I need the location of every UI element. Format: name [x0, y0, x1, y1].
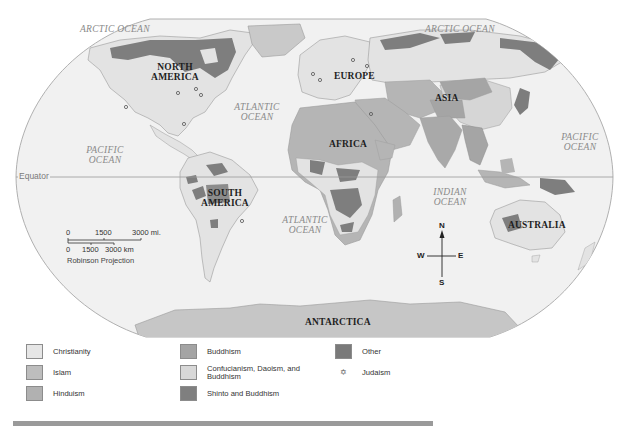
- continent-label-north-america: NORTH AMERICA: [140, 63, 210, 83]
- ocean-label-atlantic-south: ATLANTIC OCEAN: [266, 216, 344, 236]
- legend-label-christianity: Christianity: [53, 348, 91, 356]
- map-legend: Christianity Islam Hinduism Buddhism Con…: [0, 344, 625, 414]
- legend-item-hinduism: Hinduism: [26, 386, 85, 401]
- legend-swatch-islam: [26, 365, 43, 380]
- legend-item-other: Other: [335, 344, 381, 359]
- legend-swatch-buddhism: [180, 344, 197, 359]
- continent-label-australia: AUSTRALIA: [508, 221, 566, 231]
- ocean-label-indian: INDIAN OCEAN: [420, 188, 480, 208]
- legend-swatch-shinto: [180, 386, 197, 401]
- legend-label-islam: Islam: [53, 369, 71, 377]
- legend-item-judaism: ✡ Judaism: [335, 365, 390, 380]
- projection-label: Robinson Projection: [67, 257, 134, 265]
- legend-label-confucianism: Confucianism, Daoism, and Buddhism: [207, 365, 300, 381]
- continent-label-europe: EUROPE: [334, 72, 375, 82]
- legend-label-other: Other: [362, 348, 381, 356]
- equator-label: Equator: [18, 172, 50, 181]
- ocean-label-atlantic-north: ATLANTIC OCEAN: [218, 103, 296, 123]
- legend-label-shinto: Shinto and Buddhism: [207, 390, 279, 398]
- legend-label-judaism: Judaism: [362, 369, 390, 377]
- ocean-label-arctic-east: ARCTIC OCEAN: [425, 25, 495, 35]
- legend-item-shinto: Shinto and Buddhism: [180, 386, 279, 401]
- scale-mi-1500: 1500: [95, 229, 112, 237]
- map-graphic: [0, 0, 625, 340]
- scale-km-1500: 1500: [82, 246, 99, 254]
- compass-w: W: [417, 251, 425, 260]
- world-religions-map: ARCTIC OCEAN ARCTIC OCEAN ATLANTIC OCEAN…: [0, 0, 625, 340]
- continent-label-asia: ASIA: [435, 94, 459, 104]
- legend-swatch-hinduism: [26, 386, 43, 401]
- legend-swatch-other: [335, 344, 352, 359]
- continent-label-antarctica: ANTARCTICA: [305, 318, 371, 328]
- legend-item-christianity: Christianity: [26, 344, 91, 359]
- legend-item-buddhism: Buddhism: [180, 344, 241, 359]
- ocean-label-pacific-west: PACIFIC OCEAN: [75, 146, 135, 166]
- legend-label-confucianism-line2: Buddhism: [207, 372, 241, 381]
- legend-item-confucianism: Confucianism, Daoism, and Buddhism: [180, 365, 300, 381]
- legend-swatch-christianity: [26, 344, 43, 359]
- continent-label-south-america: SOUTH AMERICA: [195, 189, 255, 209]
- legend-label-buddhism: Buddhism: [207, 348, 241, 356]
- ocean-label-arctic-west: ARCTIC OCEAN: [80, 25, 150, 35]
- scale-mi-3000: 3000 mi.: [132, 229, 161, 237]
- compass-s: S: [439, 278, 444, 287]
- scale-km-0: 0: [66, 246, 70, 254]
- legend-swatch-confucianism: [180, 365, 197, 380]
- legend-item-islam: Islam: [26, 365, 71, 380]
- compass-n: N: [439, 221, 445, 230]
- continent-label-africa: AFRICA: [329, 140, 367, 150]
- scale-mi-0: 0: [66, 229, 70, 237]
- star-of-david-icon: ✡: [335, 368, 352, 377]
- compass-e: E: [458, 251, 463, 260]
- scale-km-3000: 3000 km: [105, 246, 134, 254]
- ocean-label-pacific-east: PACIFIC OCEAN: [550, 133, 610, 153]
- bottom-divider-bar: [13, 421, 433, 426]
- legend-label-hinduism: Hinduism: [53, 390, 85, 398]
